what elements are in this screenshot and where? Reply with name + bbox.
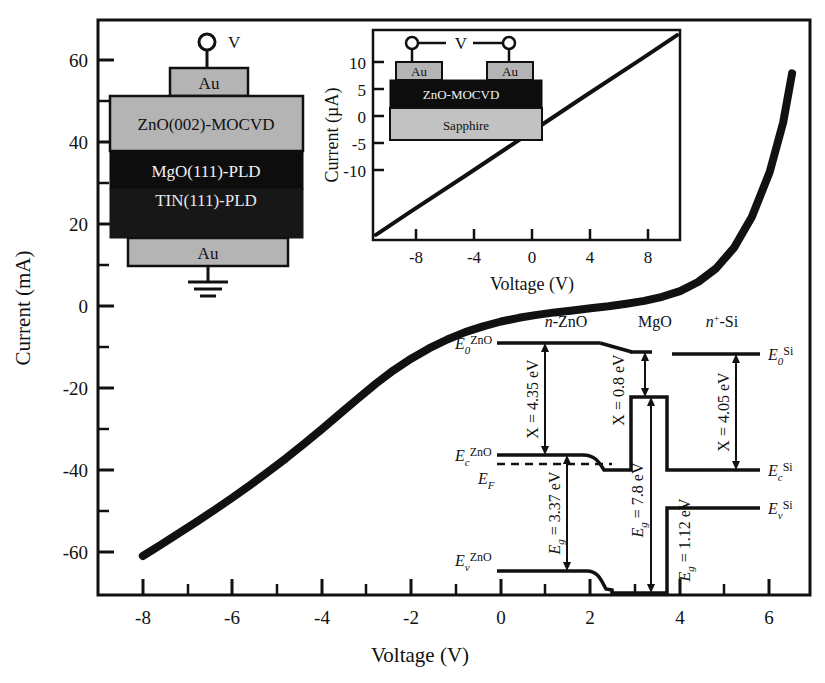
band-annotation-chi-zno-label: X = 4.35 eV (524, 359, 541, 439)
x-tick-label: -8 (135, 607, 151, 628)
lateral-film-label: ZnO-MOCVD (423, 87, 500, 102)
lateral-contact-right-label: Au (502, 64, 518, 79)
stack-layer-mgo-label: MgO(111)-PLD (151, 162, 260, 181)
inset-x-tick-label: 0 (528, 248, 537, 267)
band-region-label-nsi: n+-Si (706, 313, 739, 330)
stack-layer-au-bottom-label: Au (198, 244, 219, 263)
x-tick-label: -4 (314, 607, 330, 628)
band-region-label-mgo: MgO (638, 313, 672, 331)
y-tick-label: 60 (69, 50, 88, 71)
y-tick-label: -40 (63, 460, 88, 481)
inset-y-tick-label: 0 (358, 108, 367, 127)
inset-x-tick-label: -8 (409, 248, 423, 267)
inset-y-tick-label: -10 (343, 162, 366, 181)
inset-x-tick-label: 4 (586, 248, 595, 267)
iv-characteristics-figure: 60 40 20 0 -20 -40 -60 -8 -6 -4 -2 0 2 4… (0, 0, 825, 683)
x-tick-label: -2 (403, 607, 419, 628)
x-tick-label: 6 (764, 607, 774, 628)
stack-layer-zno-label: ZnO(002)-MOCVD (138, 115, 275, 134)
band-annotation-chi-mgo-label: X = 0.8 eV (610, 354, 627, 426)
y-tick-label: -20 (63, 378, 88, 399)
terminal-circle-icon (199, 34, 215, 50)
main-x-axis-title: Voltage (V) (371, 643, 469, 667)
y-tick-label: 20 (69, 214, 88, 235)
main-y-axis-title: Current (mA) (11, 251, 35, 366)
x-tick-label: 2 (585, 607, 595, 628)
y-tick-label: -60 (63, 542, 88, 563)
band-annotation-eg-zno: Eg = 3.37 eV (546, 455, 571, 571)
stack-layer-tin-label: TIN(111)-PLD (155, 191, 257, 210)
y-tick-label: 0 (79, 296, 89, 317)
lateral-probe-left-icon (406, 37, 418, 49)
y-tick-label: 40 (69, 132, 88, 153)
lateral-bias-label: V (455, 34, 468, 53)
band-annotation-chi-zno: X = 4.35 eV (524, 343, 549, 455)
inset-y-tick-label: 10 (349, 54, 366, 73)
figure-root: 60 40 20 0 -20 -40 -60 -8 -6 -4 -2 0 2 4… (0, 0, 825, 683)
inset-y-tick-label: -5 (352, 135, 366, 154)
x-tick-label: 4 (675, 607, 685, 628)
lateral-contact-left-label: Au (411, 64, 427, 79)
lateral-substrate-label: Sapphire (443, 118, 489, 133)
band-region-label-nzno: n-ZnO (545, 313, 588, 330)
inset-y-tick-label: 5 (358, 81, 367, 100)
inset-y-axis-title: Current (µA) (322, 88, 343, 183)
lateral-probe-right-icon (503, 37, 515, 49)
inset-x-tick-label: 8 (644, 248, 653, 267)
inset-x-tick-label: -4 (467, 248, 482, 267)
stack-bias-label: V (228, 33, 241, 52)
inset-x-axis-title: Voltage (V) (490, 274, 574, 295)
x-tick-label: -6 (224, 607, 240, 628)
x-tick-label: 0 (496, 607, 506, 628)
stack-layer-au-top-label: Au (199, 74, 220, 93)
band-annotation-chi-si-label: X = 4.05 eV (715, 372, 732, 452)
